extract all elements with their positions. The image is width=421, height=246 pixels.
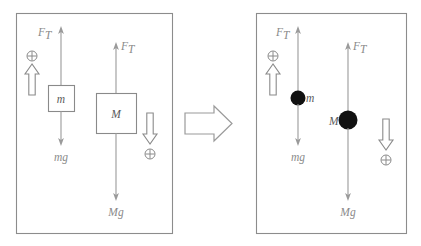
mass-body-small-right: m — [291, 91, 315, 106]
force-label-weight-small: mg — [291, 151, 305, 164]
mass-label-large: M — [328, 115, 340, 127]
mass-body-large-left: M — [97, 94, 137, 134]
transition-arrow — [185, 106, 232, 141]
mass-dot-large — [339, 111, 358, 130]
physics-free-body-diagram: FT m mg FT — [0, 0, 421, 246]
right-arrow-icon — [185, 106, 232, 141]
mass-label-small: m — [57, 93, 65, 105]
mass-body-small-left: m — [49, 86, 75, 112]
force-label-weight-large: Mg — [339, 206, 356, 219]
point-masses-panel: FT m mg FT — [257, 14, 407, 234]
extended-bodies-panel: FT m mg FT — [17, 14, 173, 234]
mass-label-small: m — [306, 92, 314, 104]
mass-label-large: M — [110, 108, 122, 120]
force-label-weight-small: mg — [54, 151, 68, 164]
force-label-weight-large: Mg — [107, 206, 124, 219]
mass-dot-small — [291, 91, 306, 106]
